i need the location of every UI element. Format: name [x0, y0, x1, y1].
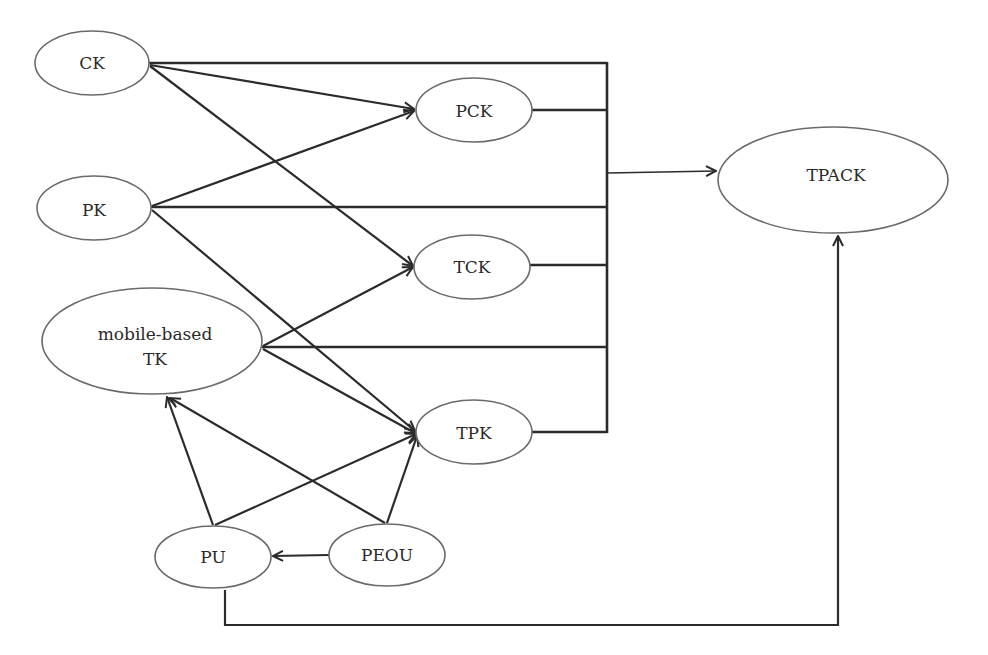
edge-peou-tk	[170, 398, 385, 523]
node-pk-label: PK	[82, 200, 106, 220]
edge-ck-tck	[150, 66, 413, 266]
edge-tk-tpk	[263, 349, 415, 433]
node-ck: CK	[35, 31, 149, 95]
node-peou: PEOU	[329, 524, 445, 586]
node-tk-label-line2: TK	[143, 349, 167, 369]
node-pck-label: PCK	[455, 101, 492, 121]
node-tpack: TPACK	[718, 127, 948, 233]
node-pu: PU	[155, 526, 271, 588]
node-ck-label: CK	[79, 53, 105, 73]
node-pk: PK	[37, 176, 151, 240]
node-tck: TCK	[414, 235, 530, 299]
edge-bus-tpack	[608, 171, 716, 173]
edge-pu-tpk	[215, 434, 416, 525]
node-pck: PCK	[416, 78, 532, 142]
node-tpk-label: TPK	[456, 423, 492, 443]
edge-pu-tk	[167, 397, 213, 525]
node-peou-label: PEOU	[361, 545, 413, 565]
tpack-model-diagram: CK PK mobile-based TK PU PEOU PCK TCK TP…	[0, 0, 988, 655]
node-tk-label-line1: mobile-based	[98, 324, 213, 344]
edge-pk-pck	[152, 111, 414, 206]
node-mobile-based-tk: mobile-based TK	[42, 288, 262, 394]
node-tpk: TPK	[416, 400, 532, 464]
edge-ck-pck	[150, 65, 414, 109]
edge-peou-tpk	[387, 436, 417, 523]
node-tpack-label: TPACK	[806, 165, 866, 185]
edge-tk-tck	[263, 267, 413, 346]
node-pu-label: PU	[200, 547, 225, 567]
node-tck-label: TCK	[453, 257, 490, 277]
edge-peou-pu	[273, 555, 329, 556]
